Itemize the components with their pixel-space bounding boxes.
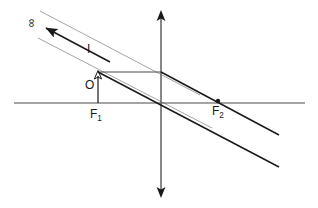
guide-line-lower xyxy=(38,38,212,128)
focal-point-f2-label: F2 xyxy=(212,105,224,117)
focal-point-f1-subscript: 1 xyxy=(97,114,102,123)
ray-diagram-figure: ∞ I O F1 F2 xyxy=(0,0,318,208)
incident-ray-label: I xyxy=(87,43,90,55)
object-label: O xyxy=(85,79,94,91)
infinity-label: ∞ xyxy=(25,19,37,28)
focal-point-f1-label: F1 xyxy=(90,108,102,120)
guide-line-upper xyxy=(40,11,200,95)
focus-point-marker xyxy=(216,99,220,103)
ray-diagram-canvas xyxy=(0,0,318,208)
incident-beam-arrow xyxy=(46,28,110,62)
focal-point-f2-subscript: 2 xyxy=(219,111,224,120)
